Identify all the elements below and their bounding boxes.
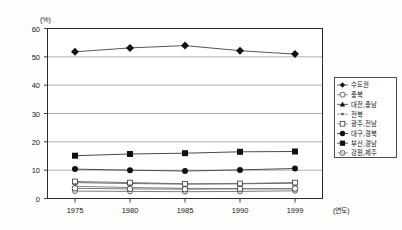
xtick-label-1985: 1985 [177, 206, 194, 215]
chart-figure: (%) 60 50 40 30 20 10 0 1975 1980 1985 1… [0, 0, 402, 230]
filled-square-icon [340, 141, 345, 146]
y-tick-marks [44, 29, 48, 199]
legend-label: 대전,충남 [351, 100, 377, 109]
ytick-label-40: 40 [32, 81, 40, 90]
legend-label: 부산,경남 [351, 139, 377, 148]
hollow-circle-icon [340, 92, 345, 97]
filled-circle-icon [340, 131, 345, 136]
xtick-label-1980: 1980 [122, 206, 139, 215]
ytick-label-10: 10 [32, 166, 40, 175]
xtick-label-1975: 1975 [67, 206, 84, 215]
legend-label: 강원,제주 [351, 148, 377, 157]
xtick-label-1999: 1999 [287, 206, 304, 215]
line-chart: (%) 60 50 40 30 20 10 0 1975 1980 1985 1… [0, 0, 402, 230]
x-axis-unit-label: (연도) [333, 207, 350, 215]
xtick-label-1990: 1990 [232, 206, 249, 215]
legend-label: 수도권 [351, 81, 369, 89]
small-dot-icon [341, 113, 344, 116]
legend-label: 광주,전남 [351, 119, 377, 128]
ytick-label-60: 60 [32, 25, 40, 34]
ytick-label-20: 20 [32, 138, 40, 147]
legend-label: 대구,경북 [351, 129, 377, 138]
hollow-square-icon [340, 122, 345, 127]
ytick-label-30: 30 [32, 110, 40, 119]
y-axis-unit-label: (%) [40, 16, 51, 24]
ytick-label-0: 0 [36, 195, 40, 204]
legend-label: 전북 [351, 110, 363, 119]
x-tick-marks [75, 199, 295, 203]
legend-label: 충북 [351, 90, 363, 99]
ytick-label-50: 50 [32, 53, 40, 62]
chart-legend[interactable]: 수도권 충북 대전,충남 전북 [335, 78, 397, 158]
